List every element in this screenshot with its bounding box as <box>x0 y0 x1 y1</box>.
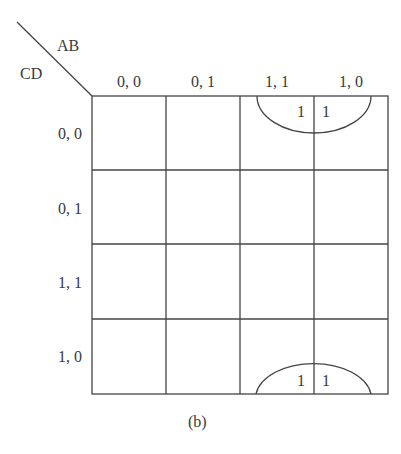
col-label: 1, 0 <box>314 74 388 90</box>
col-label: 1, 1 <box>240 74 314 90</box>
row-label: 1, 1 <box>22 275 82 291</box>
row-label: 0, 0 <box>22 126 82 142</box>
cell-value: 1 <box>297 373 305 389</box>
cell-value: 1 <box>322 373 330 389</box>
col-label: 0, 1 <box>166 74 240 90</box>
row-label: 1, 0 <box>22 349 82 365</box>
col-variable-label: AB <box>57 38 79 54</box>
row-variable-label: CD <box>20 66 42 82</box>
row-label: 0, 1 <box>22 201 82 217</box>
diagonal-line <box>17 22 92 96</box>
kmap-grid <box>0 0 401 454</box>
col-label: 0, 0 <box>92 74 166 90</box>
cell-value: 1 <box>297 104 305 120</box>
cell-value: 1 <box>322 104 330 120</box>
figure-caption: (b) <box>188 414 207 430</box>
